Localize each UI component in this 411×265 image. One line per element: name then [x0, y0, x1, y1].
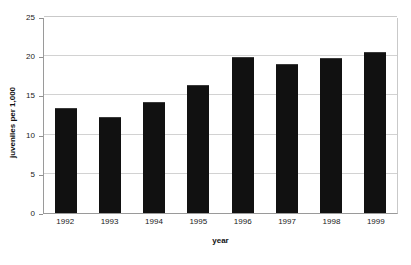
y-tick-label-10: 10 — [26, 132, 35, 140]
y-tick-label-20: 20 — [26, 53, 35, 61]
x-tick-label-1998: 1998 — [309, 218, 353, 226]
y-axis-title-wrap: juveniles per 1,000 — [0, 0, 1, 1]
y-tick-mark-15 — [39, 96, 43, 97]
y-tick-mark-25 — [39, 18, 43, 19]
x-tick-label-1993: 1993 — [87, 218, 131, 226]
y-tick-label-0: 0 — [31, 210, 35, 218]
y-tick-mark-5 — [39, 175, 43, 176]
bar-slot-1996 — [221, 18, 265, 213]
y-tick-label-5: 5 — [31, 171, 35, 179]
y-axis-tick-labels: 0510152025 — [0, 0, 39, 265]
x-axis-tick-labels: 19921993199419951996199719981999 — [43, 218, 398, 226]
x-tick-label-1999: 1999 — [354, 218, 398, 226]
bar-1993[interactable] — [99, 117, 121, 213]
bar-1997[interactable] — [276, 64, 298, 213]
bar-1999[interactable] — [364, 52, 386, 214]
y-tick-label-15: 15 — [26, 92, 35, 100]
bar-slot-1993 — [88, 18, 132, 213]
gridline-25 — [44, 16, 397, 17]
y-tick-label-25: 25 — [26, 14, 35, 22]
bar-1996[interactable] — [232, 57, 254, 213]
bar-1992[interactable] — [55, 108, 77, 213]
bar-chart: 0510152025 juveniles per 1,000 199219931… — [0, 0, 411, 265]
bar-slot-1995 — [176, 18, 220, 213]
y-axis-title: juveniles per 1,000 — [8, 63, 17, 183]
y-tick-mark-10 — [39, 136, 43, 137]
bars-layer — [44, 18, 397, 213]
bar-slot-1999 — [353, 18, 397, 213]
bar-1995[interactable] — [187, 85, 209, 213]
bar-slot-1992 — [44, 18, 88, 213]
y-tick-mark-0 — [39, 214, 43, 215]
x-axis-title: year — [43, 236, 398, 245]
y-tick-mark-20 — [39, 57, 43, 58]
bar-slot-1998 — [309, 18, 353, 213]
bar-1998[interactable] — [320, 58, 342, 213]
plot-area — [43, 18, 398, 214]
x-tick-label-1994: 1994 — [132, 218, 176, 226]
bar-1994[interactable] — [143, 102, 165, 213]
x-tick-label-1995: 1995 — [176, 218, 220, 226]
bar-slot-1997 — [265, 18, 309, 213]
x-tick-label-1997: 1997 — [265, 218, 309, 226]
x-tick-label-1996: 1996 — [221, 218, 265, 226]
x-tick-label-1992: 1992 — [43, 218, 87, 226]
bar-slot-1994 — [132, 18, 176, 213]
